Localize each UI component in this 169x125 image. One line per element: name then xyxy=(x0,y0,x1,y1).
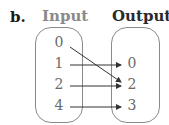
mapping-arrows xyxy=(0,0,169,125)
